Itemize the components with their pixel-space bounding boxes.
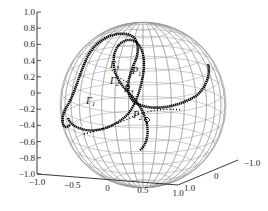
z-tick-label: 0.2 bbox=[24, 72, 35, 82]
z-tick-label: −0.2 bbox=[19, 104, 35, 114]
z-tick-label: 0.6 bbox=[24, 39, 36, 49]
sphere-plot: 1.00.80.60.40.20−0.2−0.4−0.6−0.8−1.0 −1.… bbox=[0, 0, 268, 211]
y-tick-label: 0 bbox=[214, 171, 219, 181]
z-tick-label: −0.4 bbox=[19, 120, 36, 130]
z-tick-label: −0.6 bbox=[19, 137, 36, 147]
x-tick-label: 0.5 bbox=[137, 185, 149, 195]
x-tick-label: −1.0 bbox=[29, 177, 46, 187]
z-tick-label: 0.8 bbox=[24, 23, 36, 33]
z-tick-label: −0.8 bbox=[19, 153, 36, 163]
label-p1: P1 bbox=[131, 65, 142, 78]
x-tick-label: −0.5 bbox=[64, 180, 81, 190]
x-tick-label: 1.0 bbox=[172, 188, 184, 198]
z-tick-label: 1.0 bbox=[24, 7, 36, 17]
x-tick-label: 0 bbox=[105, 183, 110, 193]
label-gamma-1: Γ1 bbox=[85, 95, 95, 108]
y-axis-line bbox=[178, 160, 238, 185]
z-tick-label: 0 bbox=[31, 88, 36, 98]
z-axis-ticks: 1.00.80.60.40.20−0.2−0.4−0.6−0.8−1.0 bbox=[19, 7, 41, 179]
z-tick-label: 0.4 bbox=[24, 56, 36, 66]
y-tick-label: −1.0 bbox=[244, 158, 261, 168]
y-tick-label: 1.0 bbox=[184, 183, 196, 193]
